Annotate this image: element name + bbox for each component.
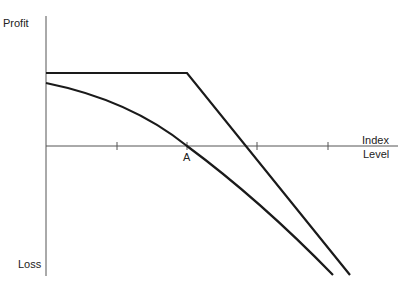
level-label: Level [363,148,389,160]
point-a-label: A [183,151,190,163]
kinked-payoff-line [46,73,350,275]
index-label: Index [362,134,389,146]
concave-payoff-curve [46,83,333,275]
profit-label: Profit [3,17,29,29]
loss-label: Loss [18,258,41,270]
payoff-diagram [0,0,415,294]
